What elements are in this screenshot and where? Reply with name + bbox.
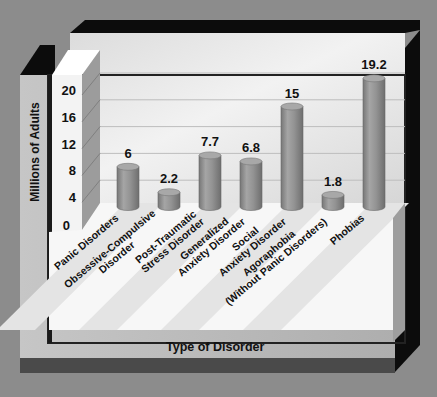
bar [240, 158, 262, 211]
value-label: 6.8 [231, 140, 271, 155]
y-tick-label: 12 [52, 137, 76, 152]
frame-bottom-band [20, 358, 395, 373]
bar [322, 191, 344, 210]
axis-pillar-face [52, 75, 82, 232]
bar [363, 75, 385, 211]
frame-left-top [20, 45, 55, 75]
bar [199, 152, 221, 211]
value-label: 1.8 [313, 174, 353, 189]
y-tick-label: 0 [46, 218, 70, 233]
bar [117, 163, 139, 210]
frame-top-band [70, 20, 420, 33]
value-label: 2.2 [149, 171, 189, 186]
bar [281, 103, 303, 211]
bar [158, 189, 180, 211]
y-tick-label: 16 [52, 110, 76, 125]
y-tick-label: 20 [52, 83, 76, 98]
value-label: 19.2 [354, 57, 394, 72]
axis-pillar-side [82, 50, 100, 230]
y-tick-label: 8 [52, 163, 76, 178]
y-tick-label: 4 [52, 190, 76, 205]
value-label: 15 [272, 86, 312, 101]
x-axis-label: Type of Disorder [166, 340, 264, 354]
value-label: 6 [108, 146, 148, 161]
chart: 048121620 62.27.76.8151.819.2 Panic Diso… [0, 0, 437, 397]
y-axis-label: Millions of Adults [28, 97, 42, 207]
value-label: 7.7 [190, 134, 230, 149]
floor-right-edge [393, 203, 405, 342]
